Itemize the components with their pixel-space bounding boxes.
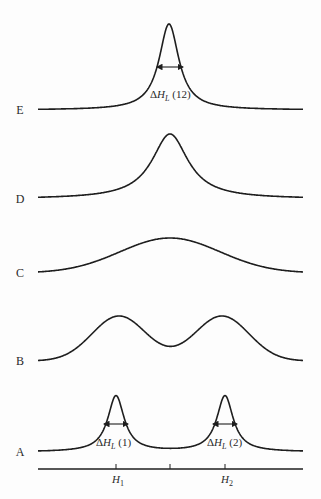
spectrum-curve-b (38, 316, 303, 361)
row-label-a: A (16, 445, 25, 459)
linewidth-label: ΔHL (12) (150, 88, 191, 103)
row-label-c: C (16, 266, 24, 280)
lineshape-figure: EDCBA ΔHL (12)ΔHL (1)ΔHL (2) H1H2 (0, 0, 321, 499)
row-label-b: B (16, 354, 24, 368)
lineshape-diagram: EDCBA ΔHL (12)ΔHL (1)ΔHL (2) H1H2 (0, 0, 321, 499)
field-axis: H1H2 (38, 464, 303, 488)
spectrum-curve-a (38, 396, 303, 451)
spectrum-curve-c (38, 238, 303, 272)
row-label-d: D (16, 192, 25, 206)
spectrum-curve-d (38, 134, 303, 197)
row-labels: EDCBA (16, 103, 25, 459)
row-label-e: E (16, 103, 23, 117)
tick-label: H1 (111, 473, 124, 488)
linewidth-label: ΔHL (1) (96, 436, 131, 451)
tick-label: H2 (220, 473, 233, 488)
linewidth-annotations: ΔHL (12)ΔHL (1)ΔHL (2) (96, 67, 242, 451)
linewidth-label: ΔHL (2) (207, 436, 242, 451)
